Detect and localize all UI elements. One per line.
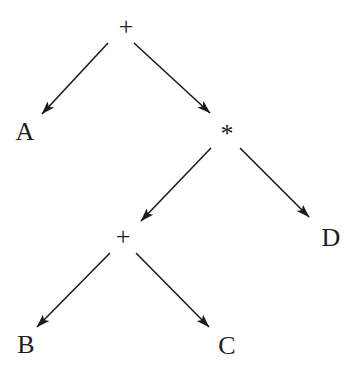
- expression-tree-diagram: +A*+DBC: [0, 0, 353, 373]
- node-star-label: *: [221, 119, 234, 148]
- node-b-label: B: [17, 330, 34, 359]
- tree-edges-layer: [37, 43, 309, 327]
- node-c-label: C: [218, 331, 235, 360]
- edge-plus-root-to-a: [42, 43, 108, 114]
- node-plus-root-label: +: [119, 12, 134, 41]
- edge-star-to-plus-inner: [141, 148, 211, 221]
- tree-nodes-layer: +A*+DBC: [16, 12, 341, 360]
- edge-plus-root-to-star: [134, 43, 210, 113]
- expression-tree-svg: +A*+DBC: [0, 0, 353, 373]
- node-plus-inner-label: +: [116, 222, 131, 251]
- edge-star-to-d: [240, 148, 309, 217]
- node-a-label: A: [16, 117, 35, 146]
- edge-plus-inner-to-c: [136, 253, 209, 327]
- edge-plus-inner-to-b: [37, 253, 110, 327]
- node-d-label: D: [322, 223, 341, 252]
